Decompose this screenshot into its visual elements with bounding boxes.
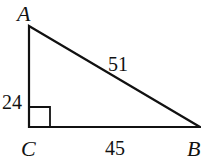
side-label-ab: 51 [108, 53, 128, 75]
side-label-ac: 24 [2, 91, 22, 113]
vertex-label-a: A [15, 1, 31, 26]
vertex-label-c: C [21, 136, 36, 161]
right-angle-marker [29, 107, 50, 127]
triangle-abc [29, 26, 200, 127]
triangle-diagram: A C B 24 51 45 [0, 0, 201, 164]
vertex-label-b: B [187, 136, 200, 161]
side-label-cb: 45 [105, 137, 125, 159]
